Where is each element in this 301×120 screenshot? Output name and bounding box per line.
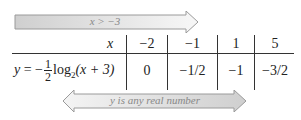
denominator: 2 [44, 71, 52, 83]
function-label: y = −12log2(x + 3) [14, 58, 114, 83]
y-value: 0 [127, 63, 167, 79]
x-value: 1 [218, 36, 254, 52]
log-argument: (x + 3) [75, 62, 114, 77]
x-value: −2 [127, 36, 167, 52]
equals-minus: = − [20, 62, 43, 77]
y-value: −1 [218, 63, 254, 79]
domain-label: x > −3 [60, 15, 150, 27]
y-value: −1/2 [168, 63, 217, 79]
table-divider [12, 53, 294, 54]
y-value: −3/2 [255, 63, 295, 79]
x-value: 5 [255, 36, 295, 52]
fraction: 12 [44, 58, 52, 83]
x-header: x [100, 36, 120, 52]
range-label: y is any real number [80, 94, 230, 106]
log: log [53, 62, 71, 77]
x-value: −1 [168, 36, 217, 52]
